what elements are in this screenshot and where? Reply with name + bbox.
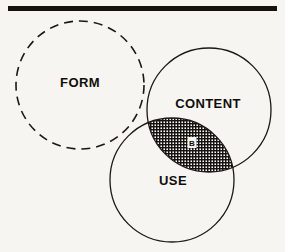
label-use: USE [159, 173, 187, 188]
lens-label-b-text: B [189, 139, 195, 148]
lens-label-b: B [188, 137, 197, 148]
venn-diagram-figure: FORM CONTENT USE B [0, 0, 285, 252]
label-content: CONTENT [175, 96, 241, 111]
venn-diagram-canvas: FORM CONTENT USE B [0, 0, 285, 252]
top-rule [8, 6, 277, 11]
label-form: FORM [60, 75, 100, 90]
